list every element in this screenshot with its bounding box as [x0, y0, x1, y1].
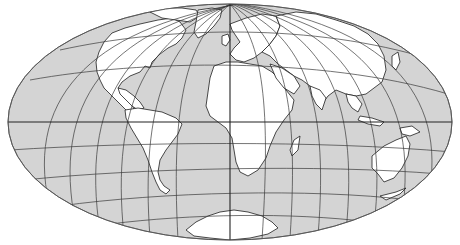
world-map — [0, 0, 460, 245]
